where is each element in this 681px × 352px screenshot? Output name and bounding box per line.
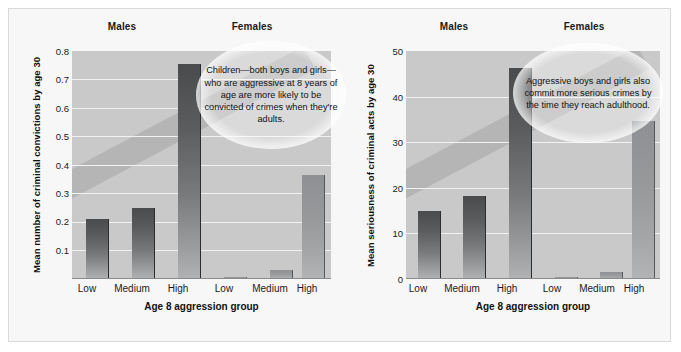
y-tick-right-1: 40 bbox=[377, 91, 403, 102]
chart-panel-convictions: Males Females Mean number of criminal co… bbox=[9, 9, 349, 343]
y-tick-left-5: 0.3 bbox=[43, 188, 69, 199]
gridline bbox=[406, 142, 660, 143]
y-axis-title-left: Mean number of criminal convictions by a… bbox=[31, 57, 42, 273]
group-label-males-left: Males bbox=[87, 21, 157, 32]
bar-males-medium-right bbox=[463, 196, 486, 279]
y-tick-left-2: 0.6 bbox=[43, 102, 69, 113]
figure-root: Males Females Mean number of criminal co… bbox=[0, 0, 681, 352]
y-tick-right-2: 30 bbox=[377, 137, 403, 148]
x-axis-line-right bbox=[406, 278, 660, 280]
x-axis-line-left bbox=[72, 278, 331, 280]
x-tick-left-3: Low bbox=[198, 283, 250, 294]
chart-panel-seriousness: Males Females Mean seriousness of crimin… bbox=[341, 9, 672, 343]
group-label-females-right: Females bbox=[549, 21, 619, 32]
y-tick-left-7: 0.1 bbox=[43, 244, 69, 255]
y-tick-right-3: 20 bbox=[377, 182, 403, 193]
callout-bubble-left: Children—both boys and girls—who are agg… bbox=[196, 41, 346, 149]
gridline bbox=[406, 233, 660, 234]
group-label-males-right: Males bbox=[419, 21, 489, 32]
bar-males-medium-left bbox=[132, 208, 155, 279]
bar-females-high-left bbox=[302, 175, 325, 279]
x-tick-left-5: High bbox=[281, 283, 333, 294]
callout-text-right: Aggressive boys and girls also commit mo… bbox=[513, 75, 663, 112]
y-tick-left-0: 0.8 bbox=[43, 46, 69, 57]
y-tick-left-6: 0.2 bbox=[43, 216, 69, 227]
y-tick-right-0: 50 bbox=[377, 46, 403, 57]
gridline bbox=[72, 193, 331, 194]
callout-bubble-right: Aggressive boys and girls also commit mo… bbox=[513, 43, 663, 143]
y-tick-left-3: 0.5 bbox=[43, 131, 69, 142]
gridline bbox=[72, 222, 331, 223]
x-axis-title-left: Age 8 aggression group bbox=[72, 301, 331, 312]
x-axis-title-right: Age 8 aggression group bbox=[406, 301, 660, 312]
y-tick-right-4: 10 bbox=[377, 228, 403, 239]
bar-males-low-right bbox=[418, 211, 441, 279]
x-tick-left-1: Medium bbox=[106, 283, 158, 294]
gridline bbox=[72, 250, 331, 251]
bar-females-high-right bbox=[632, 121, 655, 279]
y-axis-title-right: Mean seriousness of criminal acts by age… bbox=[365, 64, 376, 267]
gridline bbox=[72, 165, 331, 166]
x-tick-right-5: High bbox=[608, 283, 660, 294]
bar-males-low-left bbox=[86, 219, 109, 279]
x-tick-left-2: High bbox=[152, 283, 204, 294]
figure-frame: Males Females Mean number of criminal co… bbox=[8, 8, 671, 342]
callout-text-left: Children—both boys and girls—who are agg… bbox=[196, 64, 346, 125]
y-tick-left-1: 0.7 bbox=[43, 74, 69, 85]
group-label-females-left: Females bbox=[217, 21, 287, 32]
gridline bbox=[406, 188, 660, 189]
y-tick-left-4: 0.4 bbox=[43, 159, 69, 170]
